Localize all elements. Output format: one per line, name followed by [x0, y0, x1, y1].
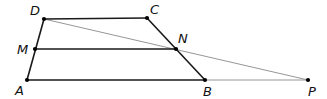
- point-b: [203, 78, 207, 82]
- point-m: [33, 47, 37, 51]
- segments-group: [27, 18, 308, 80]
- label-n: N: [178, 31, 188, 46]
- label-p: P: [308, 84, 316, 99]
- label-b: B: [203, 84, 212, 99]
- point-a: [25, 78, 29, 82]
- segment-dc: [44, 18, 147, 19]
- label-d: D: [30, 3, 40, 18]
- label-a: A: [14, 83, 24, 98]
- labels-group: DCMNABP: [14, 2, 316, 99]
- point-p: [306, 78, 310, 82]
- point-d: [42, 17, 46, 21]
- point-n: [174, 47, 178, 51]
- point-c: [145, 16, 149, 20]
- label-c: C: [150, 2, 160, 17]
- geometry-diagram: DCMNABP: [0, 0, 327, 99]
- label-m: M: [17, 42, 28, 57]
